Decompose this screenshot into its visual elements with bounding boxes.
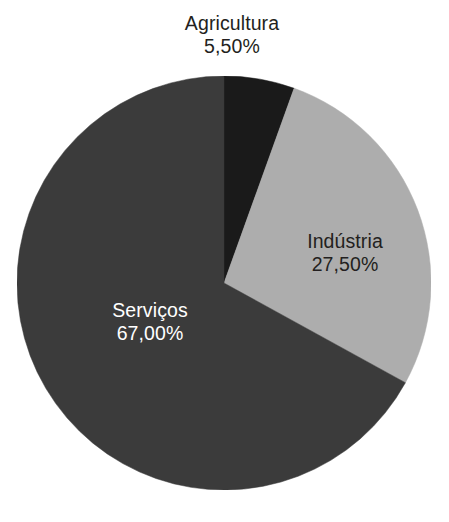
pie-chart-graphic xyxy=(17,76,431,490)
slice-label-agricultura-name: Agricultura xyxy=(152,12,312,35)
slice-label-industria-name: Indústria xyxy=(265,230,425,253)
slice-label-industria-value: 27,50% xyxy=(265,253,425,276)
slice-label-servicos-name: Serviços xyxy=(70,299,230,322)
slice-label-agricultura: Agricultura 5,50% xyxy=(152,12,312,57)
slice-label-agricultura-value: 5,50% xyxy=(152,35,312,58)
pie-chart-figure: Agricultura 5,50% Indústria 27,50% Servi… xyxy=(0,0,449,522)
slice-label-servicos-value: 67,00% xyxy=(70,322,230,345)
slice-label-servicos: Serviços 67,00% xyxy=(70,299,230,344)
slice-label-industria: Indústria 27,50% xyxy=(265,230,425,275)
